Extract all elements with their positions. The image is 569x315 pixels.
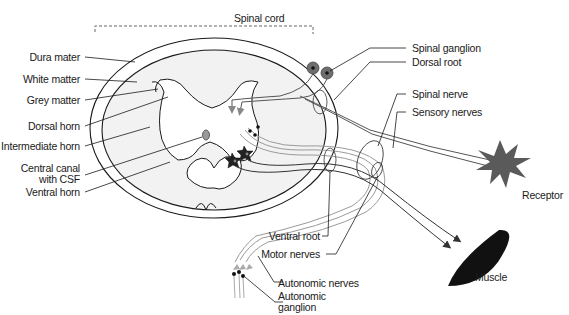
spinal-cord-bracket xyxy=(95,26,313,34)
receptor-shape xyxy=(476,140,531,188)
diagram-graphics xyxy=(0,0,569,315)
spinal-cord-diagram: Spinal cord Dura mater White matter Grey… xyxy=(0,0,569,315)
dorsal-root-label: Dorsal root xyxy=(412,56,461,68)
grey-matter-label: Grey matter xyxy=(0,94,80,106)
spinal-ganglion-label: Spinal ganglion xyxy=(412,42,481,54)
autonomic-ganglion-cell-1 xyxy=(232,272,236,276)
intermediate-horn-label: Intermediate horn xyxy=(0,140,80,152)
ventral-horn-label: Ventral horn xyxy=(0,186,80,198)
central-canal-shape xyxy=(203,130,210,140)
sensory-nerves-label: Sensory nerves xyxy=(412,106,482,118)
autonomic-ganglion-cell-3 xyxy=(241,274,245,278)
receptor-label: Receptor xyxy=(522,189,563,201)
central-canal-label-2: with CSF xyxy=(0,173,80,185)
autonomic-ganglion-label-2: ganglion xyxy=(278,301,316,313)
autonomic-ganglion-cell-2 xyxy=(237,270,241,274)
white-matter-label: White matter xyxy=(0,73,80,85)
spinal-nerve-label: Spinal nerve xyxy=(412,88,468,100)
dorsal-horn-label: Dorsal horn xyxy=(0,120,80,132)
muscle-label: Muscle xyxy=(475,271,507,283)
dura-mater-label: Dura mater xyxy=(0,51,80,63)
spinal-cord-label: Spinal cord xyxy=(234,12,284,24)
ventral-root-label: Ventral root xyxy=(240,230,320,242)
autonomic-nerves-label: Autonomic nerves xyxy=(278,277,359,289)
motor-nerves-label: Motor nerves xyxy=(240,248,320,260)
